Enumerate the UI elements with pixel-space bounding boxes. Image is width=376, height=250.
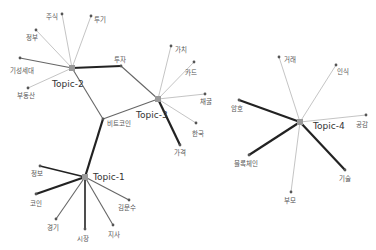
term-label: 한국 xyxy=(192,130,204,138)
term-node-bitcoin xyxy=(102,118,105,121)
edge-t1-bitcoin xyxy=(85,119,103,177)
term-label: 공감 xyxy=(356,121,368,129)
term-label: 가치 xyxy=(175,45,187,54)
edge-t2-tugi xyxy=(72,16,91,68)
term-node-gachi xyxy=(170,45,173,48)
term-label: 암호 xyxy=(231,105,243,113)
term-node-georae xyxy=(278,56,281,59)
term-node-tugi xyxy=(90,15,93,18)
topic-node-t3 xyxy=(155,96,161,102)
term-label: 지사 xyxy=(108,230,120,239)
term-label: 코인 xyxy=(30,199,42,208)
edge-t3-chaegul xyxy=(158,94,205,99)
edge-t4-amho xyxy=(239,100,300,122)
term-label: 부모 xyxy=(284,197,296,205)
term-node-gonggam xyxy=(365,114,368,117)
topic-label: Topic-3 xyxy=(135,110,168,120)
term-node-gisul xyxy=(344,169,347,172)
term-node-sijang xyxy=(84,228,87,231)
term-label: 정부 xyxy=(26,33,38,42)
edge-t4-blockchain xyxy=(249,122,300,155)
term-node-budongsan xyxy=(27,87,30,90)
term-node-chaegul xyxy=(204,93,207,96)
term-label: 비트코인 xyxy=(107,119,131,128)
term-label: 투기 xyxy=(94,15,106,24)
term-label: 기성세대 xyxy=(10,66,34,75)
term-label: 투자 xyxy=(114,55,126,64)
term-node-jeongbo xyxy=(39,165,42,168)
term-node-tuja xyxy=(120,65,123,68)
term-label: 김문수 xyxy=(118,204,136,212)
term-label: 주식 xyxy=(46,12,58,21)
term-node-coin xyxy=(35,193,38,196)
term-label: 거래 xyxy=(284,55,296,64)
term-label: 부동산 xyxy=(17,91,35,100)
topic-label: Topic-1 xyxy=(92,172,125,182)
term-node-card xyxy=(193,61,196,64)
term-node-blockchain xyxy=(248,154,251,157)
topic-label: Topic-2 xyxy=(51,79,84,89)
edge-t3-card xyxy=(158,62,194,99)
edge-t1-gyeonggi xyxy=(56,177,85,219)
term-label: 경기 xyxy=(47,223,59,232)
term-node-bumo xyxy=(290,191,293,194)
network-diagram: Topic-1Topic-2Topic-3Topic-4주식투기정부기성세대부동… xyxy=(0,0,376,250)
term-node-amho xyxy=(238,99,241,102)
term-node-hanguk xyxy=(195,122,198,125)
edge-t4-bumo xyxy=(291,122,300,192)
topic-label: Topic-4 xyxy=(312,121,345,131)
topic-node-t1 xyxy=(82,174,88,180)
term-node-gagyeok xyxy=(179,144,182,147)
term-node-gimunsu xyxy=(128,199,131,202)
term-label: 카드 xyxy=(185,68,197,77)
topic-node-t4 xyxy=(297,119,303,125)
edge-t3-tuja xyxy=(121,66,158,99)
term-label: 블록체인 xyxy=(234,159,258,168)
edge-t2-bitcoin xyxy=(72,68,103,119)
edge-t4-insik xyxy=(300,65,336,122)
edge-t2-jusik xyxy=(62,14,72,68)
term-node-jisa xyxy=(112,224,115,227)
term-label: 가격 xyxy=(174,148,186,157)
edge-t4-georae xyxy=(279,57,300,122)
term-node-insik xyxy=(335,64,338,67)
term-node-gisaengsedae xyxy=(19,57,22,60)
term-label: 인식 xyxy=(337,67,349,76)
term-label: 시장 xyxy=(77,234,89,243)
term-label: 채굴 xyxy=(200,98,212,106)
edge-t2-tuja xyxy=(72,66,121,68)
term-node-jeongbu xyxy=(35,29,38,32)
edge-t1-jeongbo xyxy=(40,166,85,177)
edge-t1-coin xyxy=(36,177,85,194)
term-node-jusik xyxy=(61,13,64,16)
term-label: 기술 xyxy=(339,174,351,183)
edge-t3-gachi xyxy=(158,46,171,99)
term-label: 정보 xyxy=(31,169,43,178)
term-node-gyeonggi xyxy=(55,218,58,221)
topic-node-t2 xyxy=(69,65,75,71)
